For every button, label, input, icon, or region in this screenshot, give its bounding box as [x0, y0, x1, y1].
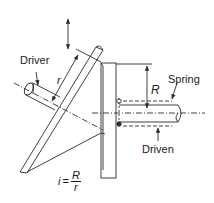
spring-leader — [172, 83, 177, 99]
driven-shaft — [119, 105, 181, 122]
spring-label: Spring — [168, 74, 200, 85]
driven-label: Driven — [142, 144, 174, 155]
driven-disc — [101, 63, 116, 178]
formula-denominator: r — [73, 182, 79, 193]
friction-drive-diagram: Driver r R Spring Driven i = R r — [0, 0, 214, 203]
formula-fraction: R r — [71, 170, 81, 193]
driver-shaft — [22, 81, 60, 110]
R-label: R — [151, 84, 160, 96]
driver-leader — [36, 72, 38, 85]
diagram-drawing — [0, 0, 214, 203]
ratio-formula: i = R r — [58, 170, 81, 193]
r-label: r — [57, 75, 61, 86]
driver-label: Driver — [20, 55, 49, 66]
formula-lhs: i — [58, 176, 60, 187]
formula-equals: = — [62, 176, 68, 187]
